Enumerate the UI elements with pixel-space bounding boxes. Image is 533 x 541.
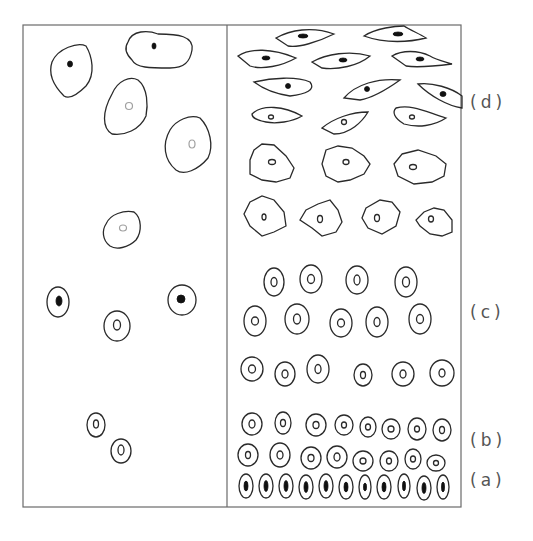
cell-nucleus [410, 115, 415, 119]
cell-nucleus [411, 456, 416, 462]
cell [322, 146, 370, 182]
cell [433, 419, 451, 441]
cell-nucleus [308, 275, 315, 284]
cell-membrane [416, 208, 452, 236]
cell-nucleus [417, 315, 424, 324]
cell-nucleus [252, 317, 259, 325]
cell-nucleus [342, 422, 347, 428]
cell [264, 268, 284, 296]
stage-a-row [239, 474, 449, 500]
cell [437, 475, 449, 499]
stage-b-row [242, 412, 451, 441]
cell [319, 474, 333, 498]
cell-membrane [51, 45, 92, 97]
cell [300, 265, 322, 293]
cell-nucleus [277, 451, 283, 459]
cell-nucleus [338, 319, 345, 327]
stage-c-row [244, 304, 431, 337]
cell-membrane [87, 413, 105, 437]
cell-nucleus [393, 32, 403, 36]
cell [395, 267, 417, 297]
cell-membrane [252, 107, 302, 122]
cell-membrane [238, 444, 258, 466]
cell-nucleus [343, 160, 349, 165]
cell-membrane [300, 200, 342, 236]
cell-nucleus [382, 482, 386, 492]
cell-nucleus [439, 369, 445, 377]
cell-nucleus [422, 483, 426, 494]
cell-nucleus [294, 314, 301, 324]
cell-membrane [275, 362, 295, 386]
cell [380, 451, 398, 471]
cell-nucleus [94, 420, 99, 428]
cell [239, 474, 253, 498]
stage-label-a: (a) [470, 470, 506, 490]
cell [252, 107, 302, 122]
cell [165, 117, 211, 173]
cell [275, 362, 295, 386]
cell-membrane [418, 84, 462, 108]
cell-membrane [366, 307, 388, 337]
cell [430, 360, 454, 386]
cell [238, 444, 258, 466]
cell [103, 212, 140, 249]
stage-d-row [244, 196, 452, 236]
cell-membrane [244, 306, 266, 336]
cell-nucleus [262, 56, 270, 60]
cell-membrane [254, 78, 312, 96]
stage-d-row [250, 144, 446, 184]
left-panel-scattered-cells [47, 32, 211, 463]
cell-nucleus [282, 370, 288, 378]
cell [417, 476, 431, 500]
cell [418, 84, 462, 108]
cell [276, 30, 334, 47]
stage-label-c: (c) [470, 302, 505, 322]
cell-membrane [264, 268, 284, 296]
cell [300, 200, 342, 236]
cell-nucleus [189, 140, 195, 148]
stage-label-b: (b) [470, 430, 506, 450]
cell-membrane [111, 439, 131, 463]
cell-nucleus [56, 296, 62, 306]
cell [312, 53, 370, 68]
cell-nucleus [334, 453, 340, 461]
stage-c-row [264, 265, 417, 297]
cell-nucleus [68, 61, 73, 67]
figure-frame [23, 25, 461, 507]
cell [306, 414, 326, 436]
cell-membrane [270, 443, 290, 467]
cell-membrane [344, 80, 400, 100]
cell [416, 208, 452, 236]
cell-membrane [104, 311, 130, 341]
cell-membrane [394, 107, 446, 126]
cell-nucleus [388, 426, 394, 432]
cell [254, 78, 312, 96]
cell-nucleus [360, 458, 366, 464]
cell [344, 80, 400, 100]
cell-membrane [433, 419, 451, 441]
stage-c-row [241, 355, 454, 386]
cell [87, 413, 105, 437]
cell [126, 32, 192, 68]
cell-nucleus [118, 445, 124, 455]
cell-nucleus [249, 365, 256, 373]
cell [250, 144, 294, 182]
cell-nucleus [315, 365, 321, 374]
cell-nucleus [262, 214, 266, 220]
cell-membrane [300, 265, 322, 293]
cell-nucleus [286, 84, 291, 89]
cell-nucleus [281, 420, 286, 427]
cell [405, 449, 421, 469]
cell [354, 364, 372, 386]
cell [377, 475, 391, 499]
cell-nucleus [361, 372, 366, 379]
cell-membrane [395, 267, 417, 297]
cell-nucleus [403, 481, 406, 491]
cell-membrane [103, 212, 140, 249]
cell [111, 439, 131, 463]
cell-membrane [241, 357, 263, 381]
cell-nucleus [440, 92, 446, 97]
cell [51, 45, 92, 97]
cell-nucleus [375, 215, 380, 222]
cell-nucleus [416, 57, 424, 61]
